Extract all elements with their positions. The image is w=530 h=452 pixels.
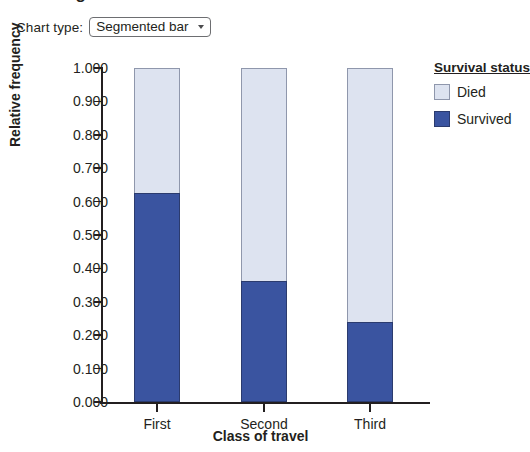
legend-item[interactable]: Died xyxy=(434,84,528,100)
y-axis-tick-label: 1.000 xyxy=(38,60,108,76)
bar-segment-died[interactable] xyxy=(134,68,180,194)
bar-segment-died[interactable] xyxy=(347,68,393,323)
bar-second[interactable] xyxy=(241,68,287,402)
y-axis-tick-label: 0.100 xyxy=(38,361,108,377)
y-axis-tick-label: 0.500 xyxy=(38,227,108,243)
y-axis-tick-label: 0.000 xyxy=(38,394,108,410)
chart-type-select[interactable]: Segmented bar xyxy=(89,17,211,37)
x-axis-tick xyxy=(263,404,265,412)
bar-segment-survived[interactable] xyxy=(241,281,287,402)
legend-item[interactable]: Survived xyxy=(434,111,528,127)
y-axis-tick-label: 0.900 xyxy=(38,93,108,109)
legend-swatch xyxy=(434,111,450,127)
y-axis-tick-label: 0.300 xyxy=(38,294,108,310)
legend-swatch xyxy=(434,84,450,100)
y-axis-tick-label: 0.800 xyxy=(38,127,108,143)
y-axis-tick-label: 0.200 xyxy=(38,327,108,343)
chart-type-selected-value: Segmented bar xyxy=(96,19,188,34)
chevron-down-icon xyxy=(198,25,204,29)
legend-items: DiedSurvived xyxy=(434,84,528,127)
y-axis-tick-label: 0.700 xyxy=(38,160,108,176)
x-axis-title: Class of travel xyxy=(101,428,420,444)
x-axis-tick xyxy=(156,404,158,412)
plot-area: 0.0000.1000.2000.3000.4000.5000.6000.700… xyxy=(101,68,420,402)
bar-segment-survived[interactable] xyxy=(134,193,180,402)
y-axis-tick-label: 0.400 xyxy=(38,260,108,276)
legend: Survival status DiedSurvived xyxy=(434,60,528,138)
x-axis-line xyxy=(100,402,430,404)
x-axis-tick xyxy=(369,404,371,412)
legend-label: Died xyxy=(457,84,486,100)
y-axis-title: Relative frequency xyxy=(7,23,23,148)
bar-segment-died[interactable] xyxy=(241,68,287,282)
page-title-clipped: Passenger survival xyxy=(0,0,528,6)
bar-first[interactable] xyxy=(134,68,180,402)
bar-third[interactable] xyxy=(347,68,393,402)
chart-type-control: Chart type: Segmented bar xyxy=(16,17,211,37)
y-axis-tick-label: 0.600 xyxy=(38,194,108,210)
page-title-text: Passenger survival xyxy=(0,0,528,4)
legend-title: Survival status xyxy=(434,60,528,75)
legend-label: Survived xyxy=(457,111,511,127)
chart-type-label: Chart type: xyxy=(16,20,83,35)
bar-segment-survived[interactable] xyxy=(347,322,393,402)
